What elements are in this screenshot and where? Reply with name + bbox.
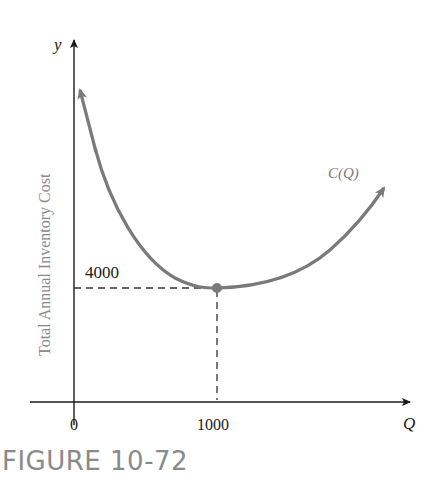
x-tick-1000: 1000: [197, 416, 229, 433]
minimum-point: [212, 283, 222, 293]
inventory-cost-chart: y Q C(Q) 4000 0 1000 Total Annual Invent…: [0, 0, 436, 485]
x-tick-0: 0: [70, 416, 78, 433]
y-axis-label: y: [52, 35, 62, 54]
y-tick-4000: 4000: [85, 263, 119, 282]
y-axis-title: Total Annual Inventory Cost: [36, 173, 54, 356]
x-axis-label: Q: [403, 414, 415, 433]
figure-caption: FIGURE 10-72: [2, 446, 188, 476]
cost-curve-left-end: [80, 90, 96, 152]
curve-label: C(Q): [328, 165, 359, 182]
